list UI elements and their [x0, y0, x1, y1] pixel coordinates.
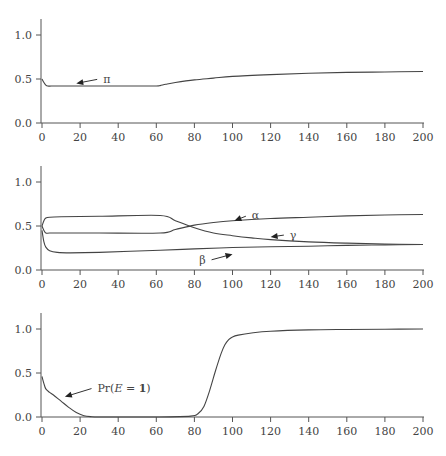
x-tick-label: 160	[336, 131, 357, 144]
x-tick-label: 140	[298, 278, 319, 291]
y-tick-label: 0.5	[15, 367, 33, 380]
x-tick-label: 140	[298, 425, 319, 438]
y-tick-label: 1.0	[15, 323, 33, 336]
arrowhead-icon	[65, 392, 73, 398]
x-tick-label: 180	[374, 425, 395, 438]
x-tick-label: 20	[73, 131, 87, 144]
annotation-label: α	[252, 209, 260, 222]
y-tick-label: 0.5	[15, 220, 33, 233]
x-tick-label: 160	[336, 278, 357, 291]
x-tick-label: 80	[187, 425, 201, 438]
annotation-label: π	[103, 73, 110, 86]
x-tick-label: 80	[187, 278, 201, 291]
series-line	[42, 215, 423, 234]
series-line	[42, 230, 423, 252]
panel-pr-e: 0204060801001201401601802000.00.51.0Pr(E…	[15, 313, 434, 438]
x-tick-label: 40	[111, 278, 125, 291]
annotation-arrow	[70, 389, 92, 396]
annotation-label: γ	[290, 229, 297, 242]
x-tick-label: 80	[187, 131, 201, 144]
y-tick-label: 1.0	[15, 29, 33, 42]
arrowhead-icon	[234, 215, 242, 221]
arrowhead-icon	[271, 233, 278, 239]
x-tick-label: 60	[149, 278, 163, 291]
figure: 0204060801001201401601802000.00.51.0π 02…	[0, 0, 446, 456]
y-tick-label: 1.0	[15, 176, 33, 189]
x-tick-label: 60	[149, 425, 163, 438]
y-tick-label: 0.0	[15, 117, 33, 130]
x-tick-label: 100	[222, 425, 243, 438]
annotation-label: Pr(E = 1)	[97, 382, 150, 395]
x-tick-label: 40	[111, 425, 125, 438]
x-tick-label: 0	[39, 278, 46, 291]
annotation-arrow	[81, 79, 97, 82]
x-tick-label: 180	[374, 278, 395, 291]
series-line	[42, 72, 423, 87]
x-tick-label: 200	[413, 131, 434, 144]
annotation-arrow	[212, 255, 228, 259]
arrowhead-icon	[76, 79, 83, 85]
x-tick-label: 40	[111, 131, 125, 144]
x-tick-label: 0	[39, 425, 46, 438]
x-tick-label: 20	[73, 278, 87, 291]
x-tick-label: 140	[298, 131, 319, 144]
x-tick-label: 200	[413, 278, 434, 291]
x-tick-label: 60	[149, 131, 163, 144]
panel-pi: 0204060801001201401601802000.00.51.0π	[15, 19, 434, 144]
y-tick-label: 0.0	[15, 264, 33, 277]
x-tick-label: 100	[222, 278, 243, 291]
y-tick-label: 0.5	[15, 73, 33, 86]
x-tick-label: 120	[260, 425, 281, 438]
x-tick-label: 120	[260, 131, 281, 144]
x-tick-label: 180	[374, 131, 395, 144]
y-tick-label: 0.0	[15, 411, 33, 424]
x-tick-label: 120	[260, 278, 281, 291]
series-line	[42, 215, 423, 244]
annotation-label: β	[199, 254, 205, 267]
x-tick-label: 200	[413, 425, 434, 438]
x-tick-label: 0	[39, 131, 46, 144]
x-tick-label: 20	[73, 425, 87, 438]
series-line	[42, 329, 423, 417]
x-tick-label: 160	[336, 425, 357, 438]
arrowhead-icon	[225, 253, 233, 259]
panel-alpha-beta-gamma: 0204060801001201401601802000.00.51.0αγβ	[15, 166, 434, 291]
x-tick-label: 100	[222, 131, 243, 144]
